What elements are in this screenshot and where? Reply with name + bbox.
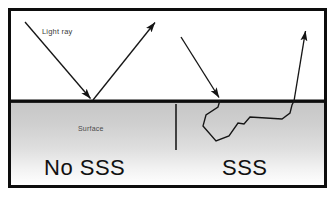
sss-diagram-figure: Light ray Surface No SSS SSS (0, 0, 336, 197)
air-region (11, 11, 324, 101)
surface-label: Surface (78, 125, 104, 132)
sss-label: SSS (222, 155, 268, 180)
light-ray-label: Light ray (42, 27, 73, 36)
no-sss-label: No SSS (44, 155, 125, 180)
diagram-canvas: Light ray Surface No SSS SSS (0, 0, 336, 197)
surface-line (11, 100, 324, 103)
